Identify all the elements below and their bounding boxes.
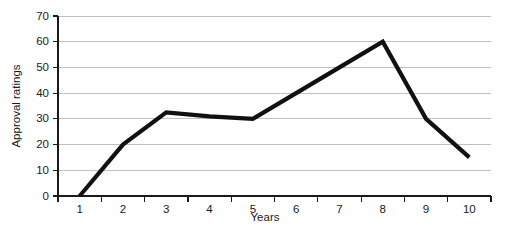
x-axis-title: Years xyxy=(251,211,280,223)
x-tick-label-7: 7 xyxy=(336,203,342,215)
y-tick-label-50: 50 xyxy=(36,61,49,73)
chart-canvas: 010203040506070 12345678910 Approval rat… xyxy=(0,0,506,238)
x-tick-label-6: 6 xyxy=(293,203,299,215)
y-axis-title: Approval ratings xyxy=(10,64,22,147)
x-tick-label-1: 1 xyxy=(76,203,82,215)
x-tick-label-9: 9 xyxy=(423,203,429,215)
y-tick-label-40: 40 xyxy=(36,87,49,99)
x-tick-label-2: 2 xyxy=(120,203,126,215)
y-tick-label-0: 0 xyxy=(43,190,49,202)
y-tick-label-10: 10 xyxy=(36,164,49,176)
x-tick-label-3: 3 xyxy=(163,203,169,215)
x-tick-label-8: 8 xyxy=(380,203,386,215)
x-tick-label-10: 10 xyxy=(463,203,476,215)
line-chart-figure: 010203040506070 12345678910 Approval rat… xyxy=(0,0,506,238)
y-tick-label-20: 20 xyxy=(36,138,49,150)
x-tick-label-4: 4 xyxy=(206,203,213,215)
y-tick-label-60: 60 xyxy=(36,35,49,47)
y-tick-label-70: 70 xyxy=(36,10,49,22)
y-tick-label-30: 30 xyxy=(36,112,49,124)
